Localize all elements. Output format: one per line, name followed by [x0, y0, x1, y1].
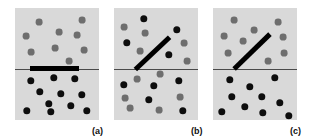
dot-gray [81, 47, 88, 54]
stimulus-panel-c [213, 8, 297, 120]
dot-gray [184, 58, 191, 65]
panel-group: (a)(b)(c) [0, 0, 316, 139]
dot-gray [157, 71, 164, 78]
stimulus-panel-a [15, 8, 99, 120]
dot-gray [137, 48, 144, 55]
dot-gray [231, 17, 238, 24]
dot-gray [52, 45, 59, 52]
panel-label-c: (c) [290, 126, 301, 136]
dot-gray [122, 95, 129, 102]
dot-gray [74, 32, 81, 39]
dot-gray [134, 76, 141, 83]
dot-gray [56, 29, 63, 36]
dot-gray [265, 58, 272, 65]
figure-root: (a)(b)(c) [0, 0, 316, 139]
panel-label-b: (b) [191, 126, 203, 136]
dot-gray [275, 19, 282, 26]
panel-label-a: (a) [92, 126, 103, 136]
dot-gray [36, 19, 43, 26]
dot-gray [156, 107, 163, 114]
boundary-line [213, 69, 297, 70]
dot-gray [121, 24, 128, 31]
stimulus-bar [30, 66, 79, 71]
dot-gray [127, 105, 134, 112]
dot-gray [177, 94, 184, 101]
panel-background [15, 8, 99, 120]
dot-gray [28, 49, 35, 56]
dot-gray [23, 33, 30, 40]
panel-background [213, 8, 297, 120]
dot-gray [225, 50, 232, 57]
dot-gray [281, 50, 288, 57]
dot-gray [280, 34, 287, 41]
dot-gray [66, 58, 73, 65]
dot-gray [142, 30, 149, 37]
dot-gray [181, 40, 188, 47]
stimulus-panel-b [114, 8, 198, 120]
dot-gray [79, 17, 86, 24]
dot-gray [221, 33, 228, 40]
dot-gray [240, 38, 247, 45]
dot-gray [251, 27, 258, 34]
boundary-line [114, 69, 198, 70]
